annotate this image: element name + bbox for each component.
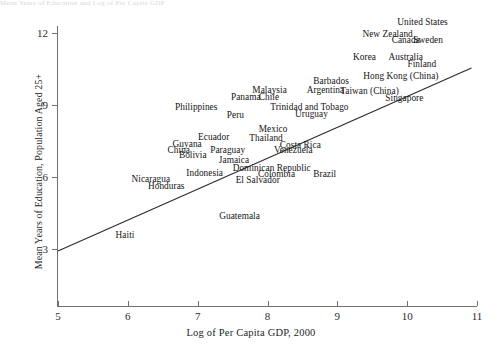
point-label: Sweden: [413, 35, 443, 45]
x-tick-mark: [477, 301, 478, 306]
point-label: Paraguay: [210, 145, 245, 155]
y-tick-mark: [52, 33, 57, 34]
x-tick-mark: [268, 301, 269, 306]
point-label: Korea: [353, 52, 376, 62]
point-label: Ecuador: [198, 132, 229, 142]
point-label: Chile: [259, 92, 279, 102]
x-tick-mark: [198, 301, 199, 306]
x-tick-mark: [128, 301, 129, 306]
y-tick-mark: [52, 249, 57, 250]
point-label: Argentina: [307, 85, 344, 95]
chart-figure: Mean Years of Education and Log of Per C…: [0, 0, 502, 355]
x-tick-label: 10: [402, 310, 413, 322]
x-axis-label: Log of Per Capita GDP, 2000: [0, 327, 502, 338]
x-tick-label: 8: [265, 310, 271, 322]
point-label: El Salvador: [236, 175, 280, 185]
y-tick-mark: [52, 105, 57, 106]
point-label: Bolivia: [179, 150, 207, 160]
point-label: Panama: [231, 92, 261, 102]
point-label: Hong Kong (China): [363, 71, 438, 81]
point-label: Honduras: [148, 181, 185, 191]
point-label: Haiti: [116, 230, 135, 240]
x-tick-mark: [58, 301, 59, 306]
point-label: Guatemala: [219, 211, 260, 221]
point-label: Peru: [227, 110, 244, 120]
y-tick-mark: [52, 177, 57, 178]
x-tick-label: 5: [55, 310, 61, 322]
point-label: Singapore: [385, 93, 423, 103]
x-axis-line: [57, 306, 477, 307]
point-label: Thailand: [249, 133, 282, 143]
y-axis-label: Mean Years of Education, Population Aged…: [33, 52, 44, 292]
point-label: United States: [397, 17, 448, 27]
point-label: Brazil: [313, 169, 336, 179]
x-tick-label: 6: [125, 310, 131, 322]
x-tick-label: 11: [472, 310, 483, 322]
point-label: Philippines: [175, 102, 217, 112]
point-label: Finland: [407, 59, 436, 69]
scatter-plot: 567891011 36912 United StatesNew Zealand…: [0, 0, 502, 355]
y-axis-line: [57, 26, 58, 307]
y-tick-label: 12: [28, 27, 48, 39]
x-tick-mark: [337, 301, 338, 306]
point-label: Venezuela: [274, 145, 313, 155]
point-label: Uruguay: [295, 109, 328, 119]
point-label: Indonesia: [186, 168, 223, 178]
x-tick-mark: [407, 301, 408, 306]
x-tick-label: 9: [335, 310, 341, 322]
x-tick-label: 7: [195, 310, 201, 322]
